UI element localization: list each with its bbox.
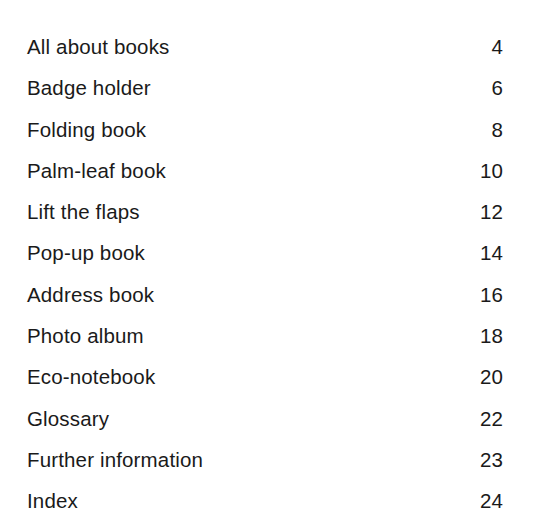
- toc-entry[interactable]: Photo album 18: [27, 315, 503, 356]
- toc-entry-title: Eco-notebook: [27, 356, 155, 397]
- toc-entry-page-number: 23: [477, 439, 503, 480]
- toc-entry-page-number: 24: [477, 480, 503, 521]
- toc-list: All about books 4 Badge holder 6 Folding…: [27, 26, 503, 522]
- toc-entry-title: Palm-leaf book: [27, 150, 166, 191]
- toc-entry-title: Photo album: [27, 315, 144, 356]
- toc-entry-page-number: 22: [477, 398, 503, 439]
- toc-entry[interactable]: Folding book 8: [27, 109, 503, 150]
- toc-entry[interactable]: Glossary 22: [27, 398, 503, 439]
- toc-entry[interactable]: Further information 23: [27, 439, 503, 480]
- toc-entry[interactable]: Palm-leaf book 10: [27, 150, 503, 191]
- toc-entry[interactable]: Index 24: [27, 480, 503, 521]
- toc-entry-title: Index: [27, 480, 78, 521]
- toc-entry-title: All about books: [27, 26, 169, 67]
- toc-entry-title: Further information: [27, 439, 203, 480]
- toc-entry-title: Glossary: [27, 398, 109, 439]
- toc-entry-title: Folding book: [27, 109, 146, 150]
- toc-entry-page-number: 16: [477, 274, 503, 315]
- toc-entry[interactable]: Address book 16: [27, 274, 503, 315]
- toc-entry[interactable]: Pop-up book 14: [27, 232, 503, 273]
- toc-entry[interactable]: All about books 4: [27, 26, 503, 67]
- toc-entry-page-number: 10: [477, 150, 503, 191]
- toc-entry-page-number: 20: [477, 356, 503, 397]
- toc-entry-title: Address book: [27, 274, 154, 315]
- toc-entry[interactable]: Eco-notebook 20: [27, 356, 503, 397]
- toc-entry-title: Lift the flaps: [27, 191, 140, 232]
- toc-entry-title: Badge holder: [27, 67, 151, 108]
- toc-page: All about books 4 Badge holder 6 Folding…: [0, 0, 533, 532]
- toc-entry-page-number: 18: [477, 315, 503, 356]
- toc-entry-page-number: 6: [477, 67, 503, 108]
- toc-entry-title: Pop-up book: [27, 232, 145, 273]
- toc-entry[interactable]: Lift the flaps 12: [27, 191, 503, 232]
- toc-entry-page-number: 4: [477, 26, 503, 67]
- toc-entry-page-number: 12: [477, 191, 503, 232]
- toc-entry[interactable]: Badge holder 6: [27, 67, 503, 108]
- toc-entry-page-number: 8: [477, 109, 503, 150]
- toc-entry-page-number: 14: [477, 232, 503, 273]
